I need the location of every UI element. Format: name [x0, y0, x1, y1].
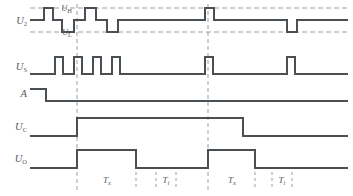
- interval-label-tx-1: Tx: [103, 175, 111, 186]
- threshold-label-uh: UH: [61, 3, 72, 14]
- interval-label-ti-4: Ti: [279, 175, 286, 186]
- signal-label-a: A: [20, 88, 28, 99]
- signal-label-u2: U2: [16, 15, 27, 27]
- interval-tick-marks: [136, 172, 292, 190]
- signal-label-us: US: [16, 61, 28, 73]
- axis-labels: U2USAUCUOUHULTxTiTxTi: [15, 3, 286, 186]
- interval-label-tx-3: Tx: [228, 175, 236, 186]
- waveform-us: [30, 57, 348, 74]
- waveform-a: [30, 89, 348, 101]
- threshold-label-ul: UL: [62, 27, 72, 38]
- signal-label-uc: UC: [15, 121, 27, 133]
- signal-traces: [30, 8, 348, 168]
- signal-label-uo: UO: [15, 153, 28, 165]
- waveform-u2: [30, 8, 348, 32]
- waveform-uc: [30, 118, 348, 136]
- timing-diagram: U2USAUCUOUHULTxTiTxTi: [0, 0, 353, 196]
- timing-diagram-canvas: U2USAUCUOUHULTxTiTxTi: [0, 0, 353, 196]
- waveform-uo: [30, 150, 348, 168]
- interval-label-ti-2: Ti: [163, 175, 170, 186]
